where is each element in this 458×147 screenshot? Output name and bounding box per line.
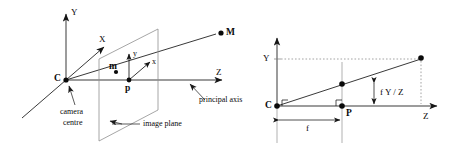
caption-camera-centre-line1: camera	[60, 108, 83, 116]
point-image-right-marker	[339, 81, 345, 87]
projection-ray-right	[277, 59, 421, 106]
label-measure-projected-height: f Y / Z	[380, 88, 404, 97]
axis-image-x	[129, 62, 150, 80]
point-scene-right-marker	[418, 55, 424, 61]
pinhole-camera-figure: Y X Z y x C p m M camera centre image pl…	[0, 0, 458, 147]
label-right-z-axis: Z	[423, 112, 429, 121]
label-world-y-axis: Y	[71, 8, 78, 17]
point-M-marker	[218, 30, 223, 35]
caption-image-plane: image plane	[143, 120, 182, 128]
label-right-point-camera-centre: C	[265, 101, 272, 111]
right-panel-group	[274, 38, 437, 143]
label-right-y-axis: Y	[263, 54, 270, 63]
label-world-z-axis: Z	[216, 68, 222, 77]
label-point-principal-point: p	[125, 84, 130, 94]
label-point-scene-point: M	[226, 28, 235, 38]
label-measure-focal-length: f	[306, 124, 309, 133]
point-p-marker	[127, 78, 132, 83]
label-image-x-axis: x	[152, 58, 156, 66]
label-point-image-point: m	[109, 62, 117, 72]
label-image-y-axis: y	[133, 50, 137, 58]
point-P-right-marker	[339, 103, 345, 109]
left-panel-group	[22, 14, 224, 141]
axis-world-x	[66, 47, 104, 80]
label-point-camera-centre: C	[54, 74, 61, 84]
label-world-x-axis: X	[99, 35, 106, 44]
label-right-point-principal-point: P	[346, 109, 352, 119]
leader-image-plane-arrow	[110, 121, 122, 124]
caption-principal-axis: principal axis	[199, 96, 242, 104]
point-C-marker	[63, 77, 68, 82]
point-C-right-marker	[274, 103, 280, 109]
leader-camera-centre	[69, 86, 75, 105]
projection-ray-C-m-M	[66, 34, 216, 80]
caption-camera-centre-line2: centre	[63, 119, 83, 127]
